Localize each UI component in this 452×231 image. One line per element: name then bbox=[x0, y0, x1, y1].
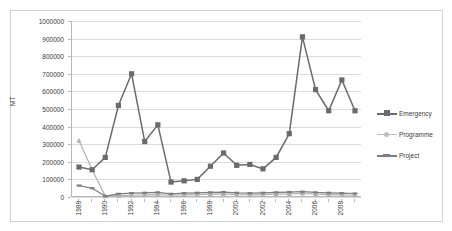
x-axis-labels: 1988199019921994199619982000200220042006… bbox=[71, 199, 361, 231]
legend-marker-square-icon bbox=[377, 109, 397, 119]
data-point-marker bbox=[116, 193, 121, 195]
data-point-marker bbox=[168, 179, 173, 184]
x-tick-label: 1998 bbox=[206, 201, 213, 215]
data-point-marker bbox=[90, 187, 95, 189]
data-point-marker bbox=[103, 155, 108, 160]
data-point-marker bbox=[116, 103, 121, 108]
data-point-marker bbox=[76, 138, 81, 143]
data-point-marker bbox=[313, 87, 318, 92]
data-point-marker bbox=[287, 131, 292, 136]
y-axis-labels: 0100000200000300000400000500000600000700… bbox=[11, 21, 68, 197]
y-tick-label: 400000 bbox=[42, 123, 64, 130]
series-lines bbox=[72, 21, 362, 197]
data-point-marker bbox=[274, 155, 279, 160]
x-tick-mark bbox=[170, 199, 171, 202]
legend-label: Project bbox=[397, 152, 419, 159]
x-tick-label: 2008 bbox=[337, 201, 344, 215]
series-line-emergency bbox=[79, 37, 355, 182]
data-point-marker bbox=[129, 192, 134, 194]
x-tick-mark bbox=[328, 199, 329, 202]
x-tick-label: 1994 bbox=[153, 201, 160, 215]
data-point-marker bbox=[76, 164, 81, 169]
x-tick-label: 2000 bbox=[232, 201, 239, 215]
data-point-marker bbox=[352, 108, 357, 113]
data-point-marker bbox=[247, 192, 252, 194]
x-tick-label: 1990 bbox=[101, 201, 108, 215]
legend-label: Programme bbox=[397, 131, 433, 138]
data-point-marker bbox=[182, 178, 187, 183]
data-point-marker bbox=[326, 192, 331, 194]
y-tick-label: 900000 bbox=[42, 35, 64, 42]
data-point-marker bbox=[142, 192, 147, 194]
data-point-marker bbox=[90, 167, 95, 172]
data-point-marker bbox=[339, 192, 344, 194]
y-tick-label: 300000 bbox=[42, 141, 64, 148]
x-tick-mark bbox=[144, 199, 145, 202]
y-tick-label: 0 bbox=[60, 194, 64, 201]
x-tick-mark bbox=[196, 199, 197, 202]
gridline bbox=[72, 197, 361, 198]
data-point-marker bbox=[195, 192, 200, 194]
data-point-marker bbox=[300, 34, 305, 39]
data-point-marker bbox=[300, 191, 305, 193]
data-point-marker bbox=[247, 162, 252, 167]
y-tick-label: 100000 bbox=[42, 176, 64, 183]
data-point-marker bbox=[274, 191, 279, 193]
x-tick-mark bbox=[249, 199, 250, 202]
data-point-marker bbox=[260, 166, 265, 171]
data-point-marker bbox=[261, 192, 266, 194]
data-point-marker bbox=[326, 108, 331, 113]
y-tick-mark bbox=[68, 197, 71, 198]
x-tick-mark bbox=[117, 199, 118, 202]
y-tick-label: 700000 bbox=[42, 70, 64, 77]
data-point-marker bbox=[155, 122, 160, 127]
legend-marker-triangle-icon bbox=[377, 130, 397, 140]
data-point-marker bbox=[142, 139, 147, 144]
data-point-marker bbox=[195, 177, 200, 182]
data-point-marker bbox=[234, 163, 239, 168]
data-point-marker bbox=[339, 77, 344, 82]
data-point-marker bbox=[169, 193, 174, 195]
x-tick-label: 1988 bbox=[75, 201, 82, 215]
data-point-marker bbox=[287, 191, 292, 193]
y-tick-label: 600000 bbox=[42, 88, 64, 95]
legend-item-emergency[interactable]: Emergency bbox=[377, 103, 447, 124]
y-tick-label: 200000 bbox=[42, 158, 64, 165]
data-point-marker bbox=[234, 192, 239, 194]
data-point-marker bbox=[182, 192, 187, 194]
x-tick-label: 2006 bbox=[311, 201, 318, 215]
legend-label: Emergency bbox=[397, 110, 432, 117]
data-point-marker bbox=[353, 192, 358, 194]
data-point-marker bbox=[155, 191, 160, 193]
x-tick-mark bbox=[91, 199, 92, 202]
x-tick-label: 2002 bbox=[259, 201, 266, 215]
data-point-marker bbox=[129, 71, 134, 76]
x-tick-mark bbox=[354, 199, 355, 202]
legend-item-programme[interactable]: Programme bbox=[377, 124, 447, 145]
data-point-marker bbox=[77, 184, 82, 186]
chart-legend: Emergency Programme Project bbox=[377, 103, 447, 166]
y-tick-label: 800000 bbox=[42, 53, 64, 60]
data-point-marker bbox=[208, 191, 213, 193]
x-tick-mark bbox=[275, 199, 276, 202]
x-tick-mark bbox=[301, 199, 302, 202]
series-line-programme bbox=[79, 141, 355, 196]
y-tick-label: 500000 bbox=[42, 106, 64, 113]
legend-item-project[interactable]: Project bbox=[377, 145, 447, 166]
x-tick-label: 2004 bbox=[285, 201, 292, 215]
chart-figure: MT 0100000200000300000400000500000600000… bbox=[10, 10, 443, 222]
data-point-marker bbox=[313, 191, 318, 193]
data-point-marker bbox=[221, 150, 226, 155]
data-point-marker bbox=[208, 164, 213, 169]
x-tick-mark bbox=[223, 199, 224, 202]
plot-area bbox=[71, 21, 361, 197]
data-point-marker bbox=[221, 191, 226, 193]
x-tick-label: 1996 bbox=[180, 201, 187, 215]
x-tick-label: 1992 bbox=[127, 201, 134, 215]
data-point-marker bbox=[103, 195, 108, 197]
legend-marker-line-icon bbox=[377, 151, 397, 161]
y-tick-label: 1000000 bbox=[39, 18, 64, 25]
